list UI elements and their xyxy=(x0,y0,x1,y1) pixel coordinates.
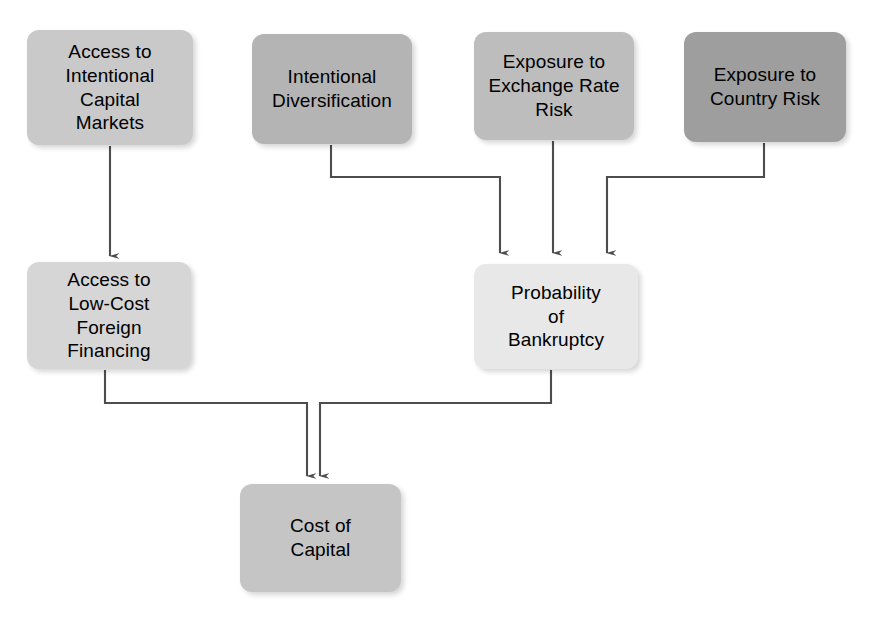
node-access-international-capital-markets[interactable]: Access to Intentional Capital Markets xyxy=(27,30,193,145)
node-access-low-cost-foreign-financing[interactable]: Access to Low-Cost Foreign Financing xyxy=(27,262,191,369)
node-intentional-diversification[interactable]: Intentional Diversification xyxy=(252,34,412,144)
node-label: Exposure to Exchange Rate Risk xyxy=(480,50,627,122)
node-label: Cost of Capital xyxy=(282,514,359,562)
edge-financing-to-cost-of-capital xyxy=(105,370,307,476)
node-probability-of-bankruptcy[interactable]: Probability of Bankruptcy xyxy=(474,264,638,369)
diagram-canvas: Access to Intentional Capital Markets In… xyxy=(0,0,876,619)
edge-bankruptcy-to-cost-of-capital xyxy=(320,370,551,476)
node-exposure-country-risk[interactable]: Exposure to Country Risk xyxy=(684,32,846,142)
node-label: Exposure to Country Risk xyxy=(702,63,828,111)
node-label: Probability of Bankruptcy xyxy=(500,281,612,353)
edge-diversification-to-bankruptcy xyxy=(331,145,500,253)
node-cost-of-capital[interactable]: Cost of Capital xyxy=(240,484,401,592)
node-label: Access to Intentional Capital Markets xyxy=(58,40,163,136)
node-label: Intentional Diversification xyxy=(264,65,400,113)
edge-country-risk-to-bankruptcy xyxy=(607,143,764,253)
node-label: Access to Low-Cost Foreign Financing xyxy=(59,268,158,364)
node-exposure-exchange-rate-risk[interactable]: Exposure to Exchange Rate Risk xyxy=(474,32,634,140)
